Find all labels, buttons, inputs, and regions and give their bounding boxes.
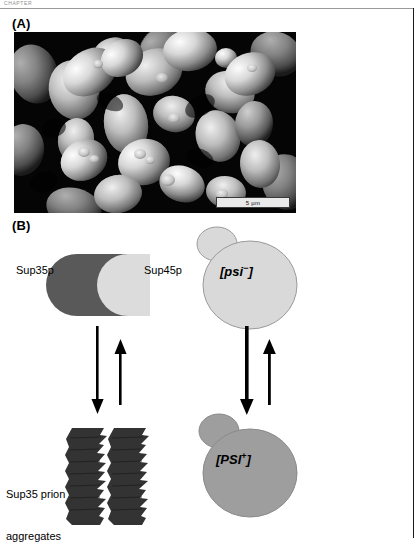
scale-bar: 5 µm [216,197,290,208]
running-head: CHAPTER [4,0,32,6]
cell-tag-psi-minus: [psi−] [220,263,253,279]
cell-body-psi-plus [203,429,297,517]
arrow-left-reverse-icon [115,339,127,405]
yeast-cells-image [14,32,296,213]
arrow-right-reverse-icon [263,339,276,405]
cell-tag-psi-plus: [PSI+] [216,451,251,467]
cell-body-psi-minus [203,241,297,329]
arrow-left-forward-icon [92,326,104,414]
cell-tag-psi-plus-open: [PSI [216,452,241,467]
label-sup35p: Sup35p [16,263,54,277]
label-prion-aggregates-line1: Sup35 prion [6,487,65,501]
top-rule [0,8,414,9]
sem-micrograph: 5 µm [14,32,296,213]
sup35-sup45-complex [46,254,150,316]
arrow-group [92,326,276,415]
scale-bar-label: 5 µm [246,200,261,206]
label-prion-aggregates-line2: aggregates [6,529,65,543]
prion-aggregates-illustration [65,428,149,525]
label-sup45p: Sup45p [144,263,182,277]
arrow-right-forward-icon [240,326,254,415]
panel-a-label: (A) [12,16,31,31]
cell-tag-psi-plus-close: ] [247,452,251,467]
cell-tag-psi-minus-open: [psi [220,264,243,279]
label-prion-aggregates: Sup35 prion aggregates [6,459,65,546]
cell-tag-psi-minus-close: ] [248,264,252,279]
